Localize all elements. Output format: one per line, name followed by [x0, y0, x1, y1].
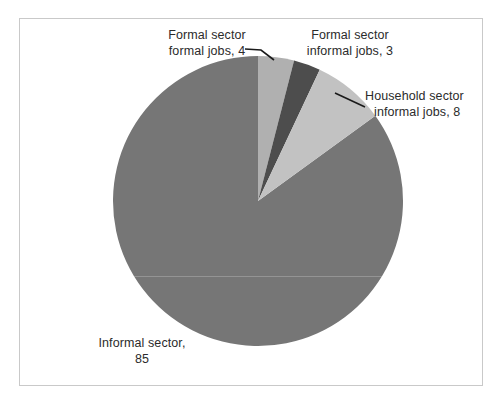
data-label-line-2: formal jobs, 4 — [151, 44, 263, 60]
data-label-line-2: 85 — [83, 352, 201, 368]
data-label-line-2: informal jobs, 8 — [365, 105, 497, 121]
chart-screenshot: Formal sector formal jobs, 4 Formal sect… — [0, 0, 503, 398]
chart-plot-frame — [19, 18, 483, 386]
data-label-line-1: Formal sector — [291, 28, 409, 44]
data-label-line-2: informal jobs, 3 — [291, 44, 409, 60]
data-label-household-sector-informal-jobs: Household sector informal jobs, 8 — [365, 89, 497, 120]
data-label-line-1: Formal sector — [151, 28, 263, 44]
data-label-formal-sector-formal-jobs: Formal sector formal jobs, 4 — [151, 28, 263, 59]
data-label-formal-sector-informal-jobs: Formal sector informal jobs, 3 — [291, 28, 409, 59]
data-label-line-1: Household sector — [365, 89, 497, 105]
data-label-line-1: Informal sector, — [83, 336, 201, 352]
data-label-informal-sector: Informal sector, 85 — [83, 336, 201, 367]
pie-chart — [20, 19, 482, 385]
